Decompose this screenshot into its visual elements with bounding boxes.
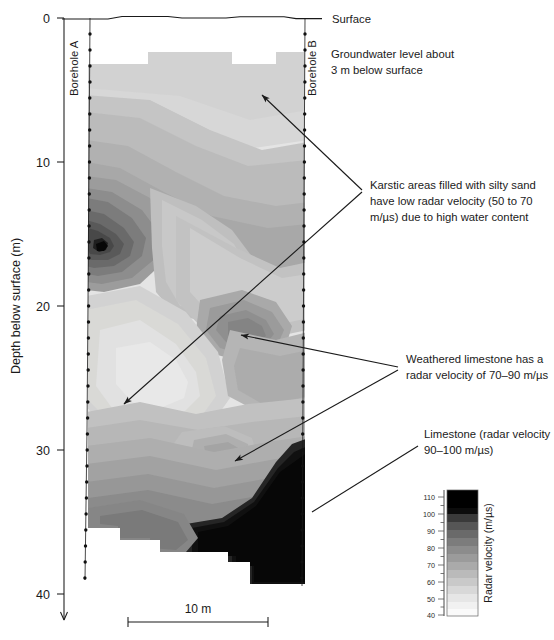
colorbar-tick-60: 60 xyxy=(427,578,435,587)
y-tick-40: 40 xyxy=(36,588,50,602)
colorbar-tick-70: 70 xyxy=(427,561,435,570)
karstic-line-1: Karstic areas filled with silty sand xyxy=(370,179,536,191)
karstic-line-2: have low radar velocity (50 to 70 xyxy=(370,195,533,207)
limestone-leader xyxy=(312,446,418,512)
surface-label: Surface xyxy=(332,13,371,25)
weathered-line-2: radar velocity of 70–90 m/µs xyxy=(406,369,548,381)
karstic-line-3: m/µs) due to high water content xyxy=(370,211,529,223)
colorbar-tick-50: 50 xyxy=(427,595,435,604)
colorbar-gradient xyxy=(447,490,478,616)
colorbar-tick-100: 100 xyxy=(423,510,435,519)
tomogram-texture xyxy=(86,50,308,590)
borehole-b-label: Borehole B xyxy=(306,40,318,96)
colorbar-title: Radar velocity (m/µs) xyxy=(482,503,494,602)
limestone-line-2: 90–100 m/µs) xyxy=(424,444,494,456)
groundwater-line-2: 3 m below surface xyxy=(331,64,423,76)
colorbar-tick-90: 90 xyxy=(427,527,435,536)
depth-axis: 0 10 20 30 40 Depth below surface (m) xyxy=(9,12,68,620)
groundwater-line-1: Groundwater level about xyxy=(331,48,455,60)
limestone-line-1: Limestone (radar velocity xyxy=(424,428,551,440)
colorbar: 110 100 90 80 70 60 50 40 Radar velocity… xyxy=(423,490,494,620)
groundwater-annotation: Groundwater level about 3 m below surfac… xyxy=(331,48,455,76)
y-axis-title: Depth below surface (m) xyxy=(9,238,23,374)
y-tick-10: 10 xyxy=(36,156,50,170)
surface-line-group: Surface xyxy=(62,13,371,25)
colorbar-tick-80: 80 xyxy=(427,544,435,553)
colorbar-tick-110: 110 xyxy=(424,493,435,502)
colorbar-ticks xyxy=(438,497,444,615)
radar-tomogram-figure: Surface 0 10 20 30 40 Depth below surfac… xyxy=(0,0,554,640)
tomogram-panel xyxy=(86,50,308,590)
y-tick-0: 0 xyxy=(43,12,50,26)
y-tick-30: 30 xyxy=(36,444,50,458)
weathered-line-1: Weathered limestone has a xyxy=(406,353,544,365)
y-tick-20: 20 xyxy=(36,300,50,314)
scale-bar-label: 10 m xyxy=(185,602,212,616)
scale-bar: 10 m xyxy=(128,602,268,627)
colorbar-tick-40: 40 xyxy=(427,611,435,620)
borehole-a-label: Borehole A xyxy=(68,40,80,96)
